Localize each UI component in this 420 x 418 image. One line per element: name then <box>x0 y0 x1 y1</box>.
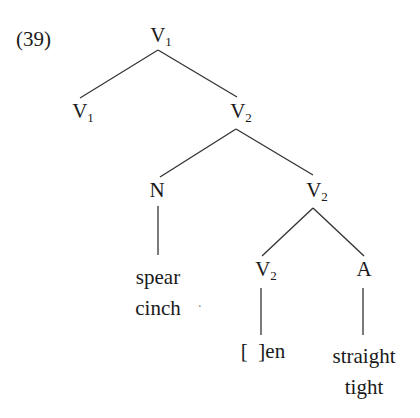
stray-mark: . <box>198 296 202 310</box>
node-subscript: 2 <box>245 110 252 125</box>
leaf-word-cinch: cinch <box>135 293 180 324</box>
node-subscript: 2 <box>270 268 277 283</box>
edge-v2mid-to-adj <box>313 208 364 256</box>
leaf-word-straight: straight <box>333 341 396 372</box>
leaf-noun-words: spear cinch <box>135 262 180 324</box>
node-category: V <box>230 99 245 123</box>
node-category: N <box>149 178 164 202</box>
node-noun: N <box>149 180 164 201</box>
node-category: V <box>306 178 321 202</box>
leaf-word-spear: spear <box>135 262 180 293</box>
node-category: V <box>150 23 165 47</box>
syntax-tree-diagram: (39) V1 V1 V2 N V2 spear cinch . V2 A [ … <box>0 0 420 418</box>
edge-v2mid-to-v2low <box>262 208 313 256</box>
node-right-child: V2 <box>230 101 252 122</box>
edge-v2-to-noun <box>160 129 236 177</box>
edge-root-to-right <box>158 50 237 97</box>
node-adj: A <box>356 259 371 280</box>
node-verb-low: V2 <box>255 259 277 280</box>
leaf-word-tight: tight <box>333 372 396 403</box>
leaf-suffix: [ ]en <box>241 341 285 362</box>
node-left-child: V1 <box>72 101 94 122</box>
node-subscript: 2 <box>321 189 328 204</box>
edge-root-to-left <box>80 50 158 98</box>
edge-v2-to-v2mid <box>236 129 313 175</box>
node-category: A <box>356 257 371 281</box>
node-root: V1 <box>150 25 172 46</box>
leaf-adj-words: straight tight <box>333 341 396 403</box>
node-category: V <box>255 257 270 281</box>
node-verb-mid: V2 <box>306 180 328 201</box>
example-number: (39) <box>16 29 51 50</box>
node-category: V <box>72 99 87 123</box>
node-subscript: 1 <box>165 34 172 49</box>
node-subscript: 1 <box>87 110 94 125</box>
